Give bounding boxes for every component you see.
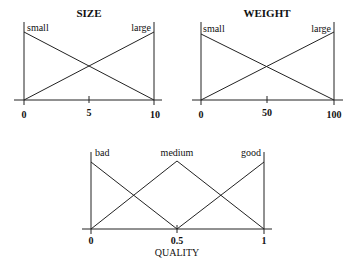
tick-label-10: 10 (150, 109, 160, 120)
x-axis-label-quality: QUALITY (155, 247, 199, 258)
tick-label-100: 100 (327, 109, 342, 120)
tick-label-0: 0 (22, 109, 27, 120)
series-label-bad: bad (95, 147, 109, 158)
series-label-medium: medium (161, 147, 194, 158)
tick-label-1: 1 (262, 235, 267, 246)
tick-label-50: 50 (262, 107, 272, 118)
series-label-large: large (311, 23, 331, 34)
chart-title-weight: WEIGHT (243, 7, 291, 19)
chart-size: SIZE small large 0 5 10 (14, 7, 162, 120)
series-label-large: large (131, 22, 151, 33)
chart-title-size: SIZE (76, 7, 101, 19)
chart-weight: WEIGHT small large 0 50 100 (192, 7, 343, 120)
series-label-small: small (27, 22, 49, 33)
fuzzy-membership-figure: SIZE small large 0 5 10 WEIGHT small lar… (0, 0, 358, 271)
series-label-small: small (203, 23, 225, 34)
tick-label-0-5: 0.5 (171, 235, 184, 246)
series-medium-line (91, 161, 264, 229)
series-label-good: good (241, 147, 261, 158)
tick-label-0: 0 (199, 109, 204, 120)
tick-label-5: 5 (87, 107, 92, 118)
chart-quality: bad medium good 0 0.5 1 QUALITY (82, 147, 272, 258)
tick-label-0: 0 (89, 235, 94, 246)
